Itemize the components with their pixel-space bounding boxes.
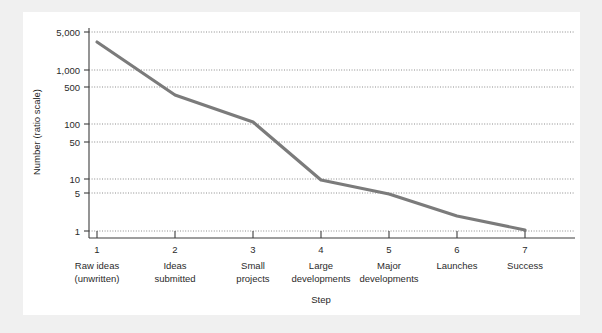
x-tick-label-7: 7 — [522, 244, 527, 255]
y-tick-label-5000: 5,000 — [56, 27, 80, 38]
x-tick-label-6: 6 — [454, 244, 459, 255]
category-label-4-line1: Large — [309, 260, 333, 271]
x-axis-title: Step — [311, 294, 331, 305]
y-tick-label-5: 5 — [75, 188, 80, 199]
category-label-5-line1: Major — [377, 260, 401, 271]
category-label-1-line2: (unwritten) — [75, 273, 120, 284]
category-label-7-line1: Success — [507, 260, 543, 271]
x-tick-label-2: 2 — [172, 244, 177, 255]
figure-card: 5,000 1,000 500 100 50 10 5 1 Number (ra… — [23, 12, 580, 315]
x-tick-label-1: 1 — [94, 244, 99, 255]
x-axis — [89, 231, 575, 238]
category-label-6-line1: Launches — [436, 260, 477, 271]
y-tick-label-500: 500 — [64, 82, 80, 93]
y-tick-label-10: 10 — [69, 174, 80, 185]
category-label-1-line1: Raw ideas — [75, 260, 120, 271]
x-tick-label-4: 4 — [318, 244, 323, 255]
page-top-artifact: · · · · · · · · · — [0, 0, 602, 12]
y-axis-title: Number (ratio scale) — [31, 89, 42, 175]
x-tick-label-5: 5 — [386, 244, 391, 255]
gridlines — [89, 32, 575, 231]
category-label-3-line1: Small — [241, 260, 265, 271]
line-chart: 5,000 1,000 500 100 50 10 5 1 Number (ra… — [23, 12, 580, 315]
category-label-3-line2: projects — [236, 273, 270, 284]
x-tick-labels: 1 2 3 4 5 6 7 — [94, 244, 527, 255]
category-label-4-line2: developments — [291, 273, 350, 284]
category-label-2-line2: submitted — [154, 273, 195, 284]
y-tick-label-1: 1 — [75, 226, 80, 237]
y-tick-labels: 5,000 1,000 500 100 50 10 5 1 — [56, 27, 80, 237]
category-label-5-line2: developments — [359, 273, 418, 284]
y-tick-label-1000: 1,000 — [56, 65, 80, 76]
y-axis — [84, 28, 89, 238]
ghost-text: · · · · · · · · · — [60, 0, 161, 4]
y-tick-label-50: 50 — [69, 137, 80, 148]
y-tick-label-100: 100 — [64, 119, 80, 130]
x-category-labels: Raw ideas (unwritten) Ideas submitted Sm… — [75, 260, 544, 284]
x-tick-label-3: 3 — [250, 244, 255, 255]
category-label-2-line1: Ideas — [163, 260, 186, 271]
